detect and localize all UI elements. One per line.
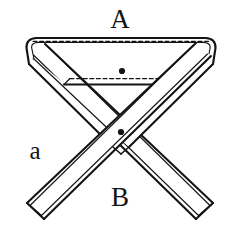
label-a-lowercase: a [18,138,52,163]
figure-container: A B a [0,0,240,245]
lower-dot-marker [118,129,124,135]
upper-dot-marker [119,68,125,74]
label-a-uppercase: A [0,6,240,33]
label-b-uppercase: B [0,184,240,211]
